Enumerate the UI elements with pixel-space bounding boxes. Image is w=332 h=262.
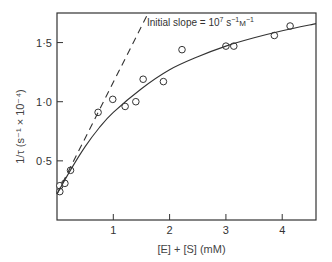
x-tick-label: 4 — [279, 224, 285, 236]
data-point — [179, 46, 186, 53]
slope-annotation: Initial slope = 107 s−1M−1 — [147, 16, 254, 28]
x-axis-label: [E] + [S] (mM) — [157, 243, 225, 255]
x-tick-label: 1 — [110, 224, 116, 236]
fitted-curve — [57, 24, 316, 194]
y-axis-label: 1/τ (s⁻¹ × 10⁻⁴) — [14, 89, 26, 164]
data-point — [140, 76, 147, 83]
x-tick-label: 2 — [167, 224, 173, 236]
y-tick-label: 0·5 — [36, 155, 52, 167]
y-tick-label: 1·0 — [36, 96, 52, 108]
data-point — [160, 78, 167, 85]
chart: 12340·51·01·5[E] + [S] (mM)1/τ (s⁻¹ × 10… — [0, 0, 332, 262]
data-point — [133, 98, 140, 105]
data-point — [95, 109, 102, 116]
data-point — [109, 96, 116, 103]
y-tick-label: 1·5 — [36, 37, 52, 49]
x-tick-label: 3 — [223, 224, 229, 236]
